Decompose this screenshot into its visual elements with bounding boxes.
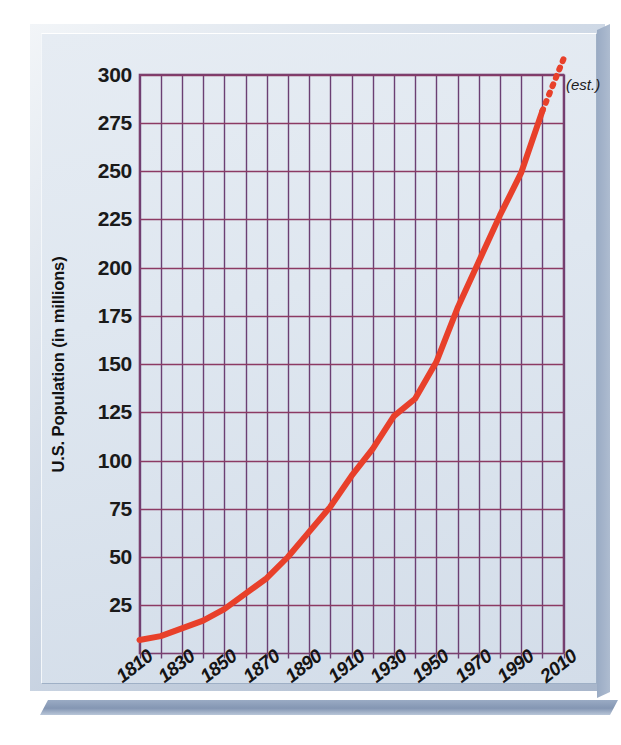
population-line (140, 111, 543, 640)
y-axis-tick-label: 150 (58, 353, 132, 374)
y-axis-tick-labels: 300275250225200175150125100755025 (58, 0, 132, 745)
estimate-annotation: (est.) (566, 76, 600, 93)
population-line-estimated (542, 59, 563, 111)
y-axis-tick-label: 175 (58, 305, 132, 326)
y-axis-tick-label: 25 (58, 594, 132, 615)
y-axis-tick-label: 275 (58, 112, 132, 133)
y-axis-title: U.S. Population (in millions) (49, 235, 68, 495)
y-axis-tick-label: 75 (58, 498, 132, 519)
y-axis-tick-label: 100 (58, 450, 132, 471)
y-axis-tick-label: 50 (58, 546, 132, 567)
y-axis-tick-label: 225 (58, 208, 132, 229)
y-axis-tick-label: 200 (58, 257, 132, 278)
population-chart-figure: 300275250225200175150125100755025 181018… (0, 0, 621, 745)
plot-area: 300275250225200175150125100755025 181018… (0, 0, 621, 745)
y-axis-tick-label: 125 (58, 401, 132, 422)
y-axis-tick-label: 250 (58, 160, 132, 181)
y-axis-tick-label: 300 (58, 64, 132, 85)
